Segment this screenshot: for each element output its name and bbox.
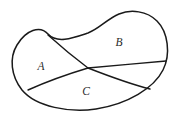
region-label-a: A — [36, 60, 45, 72]
region-label-c: C — [82, 85, 90, 97]
figure-container: A B C — [0, 0, 175, 121]
region-label-b: B — [115, 36, 122, 48]
region-diagram-svg: A B C — [0, 0, 175, 121]
